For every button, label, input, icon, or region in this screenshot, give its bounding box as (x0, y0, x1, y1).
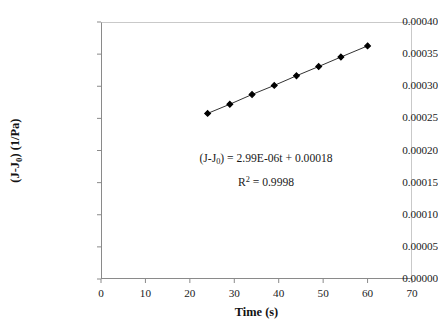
y-tick-label: 0.00025 (346, 112, 438, 123)
x-tick-label: 50 (303, 288, 343, 299)
x-tick-label: 30 (214, 288, 254, 299)
x-tick-label: 60 (348, 288, 388, 299)
x-tick-label: 70 (392, 288, 432, 299)
y-tick-label: 0.00010 (346, 209, 438, 220)
equation-suffix: ) = 2.99E-06t + 0.00018 (220, 152, 332, 165)
y-tick-label: 0.00005 (346, 241, 438, 252)
y-axis-title: (J-J0) (1/Pa) (8, 21, 23, 281)
y-tick-label: 0.00035 (346, 48, 438, 59)
fit-equation-line: (J-J0) = 2.99E-06t + 0.00018 (150, 150, 382, 171)
equation-prefix: (J-J (199, 152, 216, 165)
x-tick-label: 10 (125, 288, 165, 299)
x-axis-title: Time (s) (101, 305, 412, 320)
y-axis-title-subscript: 0 (14, 158, 24, 162)
y-tick-label: 0.00030 (346, 80, 438, 91)
x-tick-label: 20 (170, 288, 210, 299)
fit-equation-annotation: (J-J0) = 2.99E-06t + 0.00018 R2 = 0.9998 (150, 150, 382, 192)
r-squared-symbol: R (238, 176, 246, 189)
y-axis-title-suffix: ) (1/Pa) (8, 119, 22, 158)
y-tick-label: 0.00040 (346, 16, 438, 27)
r-squared-line: R2 = 0.9998 (150, 171, 382, 192)
x-tick-label: 0 (81, 288, 121, 299)
y-axis-title-prefix: (J-J (8, 162, 22, 183)
chart-container: 0.000000.000050.000100.000150.000200.000… (0, 0, 438, 336)
x-tick-label: 40 (259, 288, 299, 299)
y-tick-label: 0.00000 (346, 273, 438, 284)
r-squared-value: = 0.9998 (250, 176, 294, 189)
